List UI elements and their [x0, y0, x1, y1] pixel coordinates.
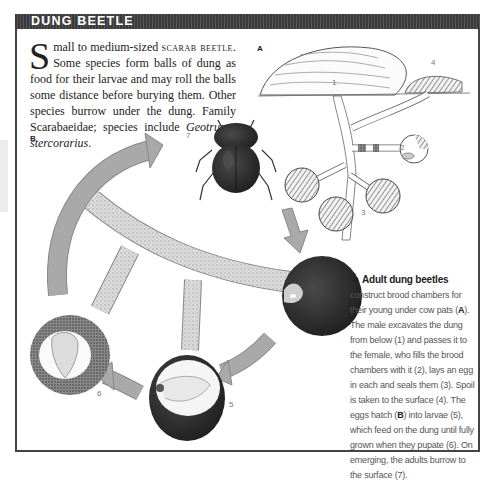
step-label-4: 4 — [431, 58, 435, 67]
step-label-1: 1 — [332, 78, 336, 87]
step-label-5: 5 — [229, 400, 233, 409]
panel-a-label: A — [257, 44, 263, 53]
step-label-3: 3 — [361, 208, 365, 217]
step-label-6: 6 — [97, 389, 101, 398]
dung-beetle-image — [196, 120, 276, 200]
figure-caption: ◄ Adult dung beetles construct brood cha… — [350, 272, 475, 483]
step-label-2: 2 — [400, 143, 404, 152]
caption-heading: Adult dung beetles — [362, 274, 448, 285]
step-label-7: 7 — [186, 131, 190, 140]
panel-b-label: B — [30, 134, 36, 143]
caption-arrow-icon: ◄ — [350, 274, 360, 285]
